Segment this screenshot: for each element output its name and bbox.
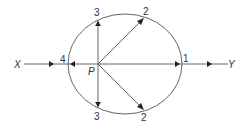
ray-to-2-lower bbox=[98, 64, 143, 109]
arrow-to-1-icon bbox=[175, 61, 180, 67]
label-point-4: 4 bbox=[60, 54, 66, 65]
arrow-y-segment-icon bbox=[207, 61, 212, 67]
label-point-2-lower: 2 bbox=[141, 112, 147, 123]
label-point-3-upper: 3 bbox=[94, 7, 100, 18]
arrow-to-3-lower-icon bbox=[95, 102, 101, 107]
ray-diagram: X Y P 1 2 2 3 3 4 bbox=[0, 0, 246, 127]
label-point-1: 1 bbox=[183, 53, 189, 64]
label-x: X bbox=[13, 59, 21, 70]
arrow-x-segment-icon bbox=[49, 61, 54, 67]
arrow-to-4-icon bbox=[70, 61, 75, 67]
ray-to-2-upper bbox=[98, 19, 143, 64]
label-y: Y bbox=[228, 59, 236, 70]
label-p: P bbox=[88, 66, 95, 77]
arrow-to-3-upper-icon bbox=[95, 21, 101, 26]
label-point-3-lower: 3 bbox=[94, 111, 100, 122]
label-point-2-upper: 2 bbox=[143, 6, 149, 17]
